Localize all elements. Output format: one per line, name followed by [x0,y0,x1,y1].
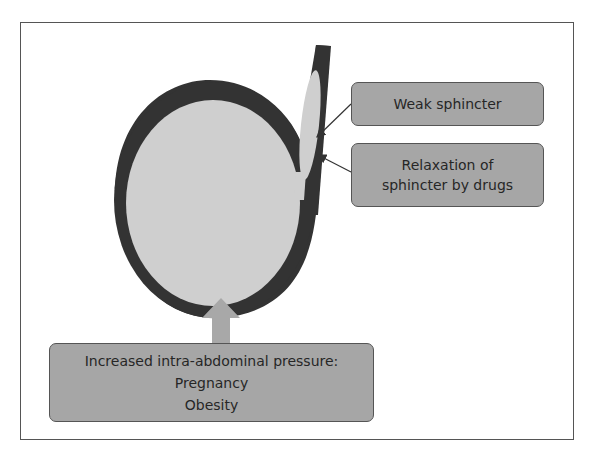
relaxation-line-2: sphincter by drugs [382,175,513,195]
pressure-item-pregnancy: Pregnancy [175,372,248,394]
relaxation-line-1: Relaxation of [402,155,494,175]
pressure-heading: Increased intra-abdominal pressure: [85,350,339,372]
label-intra-abdominal-pressure: Increased intra-abdominal pressure: Preg… [49,343,374,422]
weak-sphincter-text: Weak sphincter [393,96,501,112]
pressure-item-obesity: Obesity [185,394,238,416]
label-relaxation-by-drugs: Relaxation of sphincter by drugs [351,143,544,207]
label-weak-sphincter: Weak sphincter [351,82,544,126]
arrow-relaxation [318,155,351,172]
